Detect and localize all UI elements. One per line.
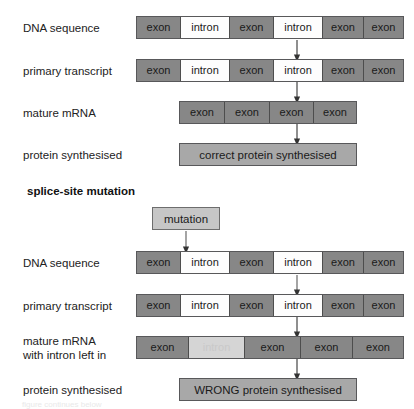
segment-exon: exon <box>137 17 181 38</box>
segment-exon: exon <box>314 102 356 123</box>
label-mutant-mature-mrna: mature mRNA with intron left in <box>23 334 106 362</box>
segment-exon: exon <box>245 337 301 358</box>
sequence-bar-mutant-mature-mrna: exonintronexonexonexon <box>136 336 404 359</box>
segment-exon: exon <box>323 295 364 316</box>
segment-intron: intron <box>274 295 323 316</box>
label-dna-sequence: DNA sequence <box>23 21 100 35</box>
segment-exon: exon <box>137 252 181 273</box>
segment-exon: exon <box>364 252 403 273</box>
sequence-bar-dna: exonintronexonintronexonexon <box>136 16 404 39</box>
section-heading-splice-site-mutation: splice-site mutation <box>27 184 135 198</box>
segment-intron: intron <box>181 295 230 316</box>
segment-intron: intron <box>274 17 323 38</box>
label-mutant-primary-transcript: primary transcript <box>23 299 112 313</box>
segment-intron: intron <box>181 60 230 81</box>
protein-bar-wrong: WRONG protein synthesised <box>179 378 357 401</box>
segment-exon: exon <box>230 252 274 273</box>
segment-exon: exon <box>230 17 274 38</box>
segment-exon: exon <box>323 60 364 81</box>
sequence-bar-mature-mrna: exonexonexonexon <box>179 101 357 124</box>
sequence-bar-primary-transcript: exonintronexonintronexonexon <box>136 59 404 82</box>
label-mutant-dna-sequence: DNA sequence <box>23 256 100 270</box>
segment-exon: exon <box>137 60 181 81</box>
label-mutant-protein-synthesised: protein synthesised <box>23 383 122 397</box>
protein-bar-correct: correct protein synthesised <box>179 143 357 166</box>
splice-site-mutation-diagram: DNA sequence exonintronexonintronexonexo… <box>0 0 414 409</box>
mutation-box: mutation <box>152 207 220 230</box>
segment-intron: intron <box>181 17 230 38</box>
segment-intron: intron <box>274 252 323 273</box>
segment-intron-faded: intron <box>189 337 245 358</box>
label-mature-mrna: mature mRNA <box>23 106 96 120</box>
segment-exon: exon <box>301 337 353 358</box>
segment-exon: exon <box>180 102 225 123</box>
segment-intron: intron <box>181 252 230 273</box>
segment-exon: exon <box>225 102 270 123</box>
segment-exon: exon <box>364 60 403 81</box>
label-primary-transcript: primary transcript <box>23 64 112 78</box>
segment-exon: exon <box>364 295 403 316</box>
segment-exon: exon <box>270 102 314 123</box>
sequence-bar-mutant-dna: exonintronexonintronexonexon <box>136 251 404 274</box>
segment-intron: intron <box>274 60 323 81</box>
segment-exon: exon <box>230 60 274 81</box>
label-protein-synthesised: protein synthesised <box>23 148 122 162</box>
segment-exon: exon <box>137 295 181 316</box>
sequence-bar-mutant-primary-transcript: exonintronexonintronexonexon <box>136 294 404 317</box>
bottom-cutoff-text: figure continues below <box>22 400 102 409</box>
segment-exon: exon <box>323 17 364 38</box>
segment-exon: exon <box>137 337 189 358</box>
segment-exon: exon <box>353 337 403 358</box>
segment-exon: exon <box>230 295 274 316</box>
segment-exon: exon <box>323 252 364 273</box>
segment-exon: exon <box>364 17 403 38</box>
